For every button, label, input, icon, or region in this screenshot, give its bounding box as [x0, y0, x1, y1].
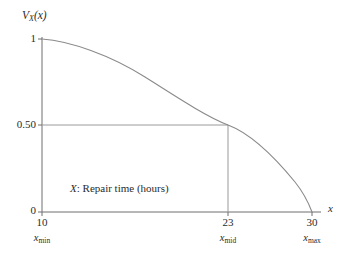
x-tick-symbol-xmin-subscript: min	[39, 236, 51, 245]
y-axis-title: VX(x)	[22, 10, 47, 23]
x-axis-title: x	[328, 203, 333, 214]
plot-annotation-variable: X	[70, 182, 77, 194]
y-tick-label-1: 1	[2, 33, 36, 44]
plot-annotation-text: : Repair time (hours)	[77, 182, 169, 194]
x-tick-label-30: 30	[292, 217, 332, 228]
chart-figure: VX(x) 1 0.50 0 10 23 30 xmin xmid xmax x…	[0, 0, 349, 254]
y-tick-label-0: 0	[2, 205, 36, 216]
y-tick-label-050: 0.50	[2, 119, 36, 130]
plot-annotation: X: Repair time (hours)	[70, 183, 169, 194]
x-tick-label-23: 23	[208, 217, 248, 228]
plot-area	[0, 0, 349, 254]
x-tick-symbol-xmid-subscript: mid	[225, 236, 237, 245]
x-tick-symbol-xmax: xmax	[289, 233, 335, 245]
y-axis-title-base: V	[22, 9, 29, 21]
x-tick-symbol-xmin: xmin	[19, 233, 65, 245]
x-tick-symbol-xmid: xmid	[205, 233, 251, 245]
x-tick-symbol-xmax-subscript: max	[308, 236, 321, 245]
y-axis-title-argument: (x)	[34, 9, 47, 21]
x-tick-label-10: 10	[22, 217, 62, 228]
